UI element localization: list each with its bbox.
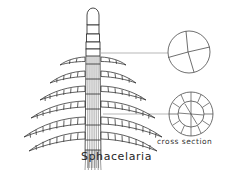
axis-segment-4 (86, 49, 100, 56)
cross-section-inset (169, 92, 213, 136)
apical-cell-division-inset (168, 31, 210, 73)
species-caption: Sphacelaria (0, 150, 233, 163)
axis-segment-2 (87, 34, 100, 42)
axis-segment-3 (86, 42, 100, 49)
apical-region (86, 8, 100, 56)
apical-cell (87, 8, 99, 25)
cross-section-caption: cross section (157, 137, 212, 146)
axis-segment-1 (87, 25, 99, 34)
